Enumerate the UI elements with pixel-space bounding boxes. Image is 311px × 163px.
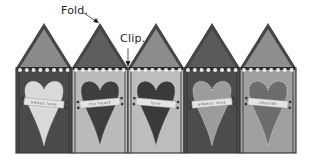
scallop <box>256 68 260 72</box>
scallop <box>262 68 266 72</box>
scallop <box>220 68 224 72</box>
scallop <box>200 68 204 72</box>
scallop <box>234 68 238 72</box>
scallop <box>130 68 134 72</box>
scallop <box>38 68 42 72</box>
scallop <box>283 68 287 72</box>
scallop <box>249 68 253 72</box>
scallop <box>227 68 231 72</box>
pennant-panel: always love <box>184 23 240 153</box>
scallop <box>66 68 70 72</box>
scallop <box>213 68 217 72</box>
banner-text: love <box>151 100 162 106</box>
scallop <box>101 68 105 72</box>
scallop <box>81 68 85 72</box>
scallop <box>206 68 210 72</box>
scallop <box>269 68 273 72</box>
scallop <box>150 68 154 72</box>
scallop <box>157 68 161 72</box>
scallop <box>290 68 294 72</box>
scallop <box>186 68 190 72</box>
scallop <box>25 68 29 72</box>
scallop <box>171 68 175 72</box>
scallop <box>178 68 182 72</box>
fold-arrowhead <box>93 18 99 23</box>
scallop <box>52 68 56 72</box>
scallop <box>59 68 63 72</box>
pennant-banner-diagram: sweet lovemy heartlovealways lovecherish <box>0 0 311 163</box>
scallop <box>18 68 22 72</box>
scallop <box>193 68 197 72</box>
scallop <box>242 68 246 72</box>
scallop <box>94 68 98 72</box>
scallop <box>137 68 141 72</box>
scallop <box>32 68 36 72</box>
scallop <box>108 68 112 72</box>
scallop <box>122 68 126 72</box>
pennant-panel: cherish <box>240 23 296 153</box>
scallop <box>144 68 148 72</box>
pennant-panel: sweet love <box>16 23 72 153</box>
scallop <box>45 68 49 72</box>
scallop <box>88 68 92 72</box>
clip-label: Clip. <box>120 32 145 45</box>
scallop <box>164 68 168 72</box>
scallop <box>115 68 119 72</box>
scallop <box>74 68 78 72</box>
fold-label: Fold. <box>61 4 88 17</box>
scallop <box>276 68 280 72</box>
